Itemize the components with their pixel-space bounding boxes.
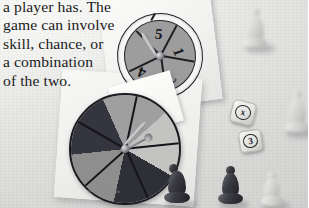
pawn-top-right (242, 6, 268, 52)
sector-divider (161, 55, 196, 63)
photo-figure: 5 1 2 4 x 3 (0, 0, 308, 208)
body-text-line-3: skill, chance, or (3, 35, 143, 53)
body-text: a player has. The game can involve skill… (3, 0, 143, 90)
body-text-line-4: a combination (3, 53, 143, 71)
pawn-body (264, 178, 280, 198)
body-text-line-2: game can involve (3, 16, 143, 34)
pawn-bottom-left (162, 164, 192, 208)
die-face-value: 3 (242, 133, 259, 149)
die-face-value: x (234, 103, 253, 121)
pawn-bottom-center (216, 166, 244, 208)
body-text-line-1: a player has. The (3, 0, 143, 16)
die-2: 3 (238, 129, 264, 154)
pawn-body (288, 97, 306, 125)
spinner-hub (121, 145, 129, 153)
body-text-line-5: of the two. (3, 72, 143, 90)
pawn-right-edge (283, 88, 308, 138)
pawn-base (164, 192, 190, 203)
pawn-base (243, 38, 267, 47)
pawn-base (261, 196, 284, 206)
pawn-base (218, 193, 243, 204)
pawn-base (285, 122, 309, 132)
pawn-bottom-right (258, 172, 286, 208)
